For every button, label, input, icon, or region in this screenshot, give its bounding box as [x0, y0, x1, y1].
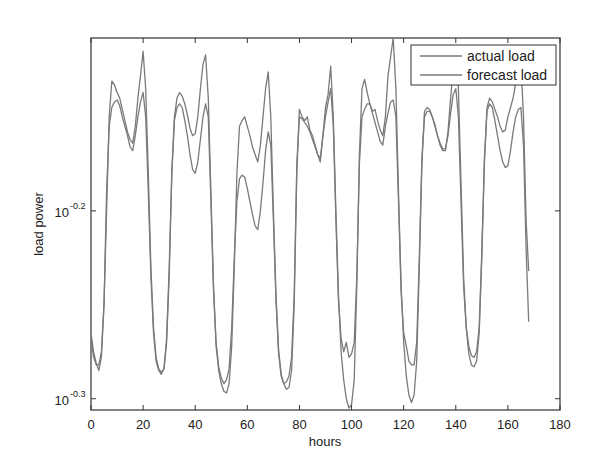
- legend-label-forecast-load: forecast load: [467, 67, 547, 83]
- legend-label-actual-load: actual load: [467, 48, 535, 64]
- y-tick-base: 10: [55, 393, 69, 408]
- x-tick-label: 100: [341, 417, 363, 432]
- x-tick-label: 120: [393, 417, 415, 432]
- y-axis-label: load power: [31, 192, 46, 256]
- x-axis-label: hours: [309, 434, 342, 449]
- x-tick-label: 80: [292, 417, 306, 432]
- load-forecast-chart: 020406080100120140160180 10-0.310-0.2 ho…: [0, 0, 599, 466]
- y-tick-exponent: -0.2: [70, 201, 86, 211]
- x-tick-label: 140: [445, 417, 467, 432]
- y-tick-base: 10: [55, 205, 69, 220]
- x-tick-label: 160: [497, 417, 519, 432]
- y-tick-label: 10: [55, 393, 69, 408]
- y-tick-label: 10: [55, 205, 69, 220]
- legend: actual load forecast load: [411, 45, 556, 85]
- x-tick-label: 60: [240, 417, 254, 432]
- x-tick-label: 180: [549, 417, 571, 432]
- plot-area: [91, 38, 560, 410]
- x-tick-label: 20: [136, 417, 150, 432]
- x-tick-label: 40: [188, 417, 202, 432]
- x-tick-label: 0: [87, 417, 94, 432]
- y-tick-exponent: -0.3: [70, 389, 86, 399]
